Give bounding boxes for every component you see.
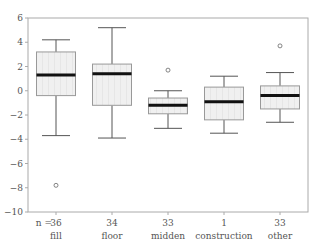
y-tick-label: 6 [17, 13, 23, 23]
y-tick-label: 2 [17, 62, 23, 72]
y-axis: 6420−2−4−6−8−10 [4, 13, 28, 217]
y-tick-label: 4 [17, 37, 23, 47]
n-count-fill: 36 [50, 218, 62, 228]
category-label-midden: midden [151, 231, 185, 241]
box-midden [149, 68, 188, 128]
x-axis-labels: n = 36fill34floor33midden1construction33… [36, 212, 293, 241]
boxes-group [37, 28, 300, 188]
box-floor [93, 28, 132, 138]
outlier-point [166, 68, 170, 72]
iqr-box [93, 64, 132, 105]
n-count-other: 33 [274, 218, 286, 228]
outlier-point [278, 44, 282, 48]
category-label-floor: floor [101, 231, 123, 241]
y-tick-label: 0 [17, 86, 23, 96]
box-other [261, 44, 300, 122]
category-label-fill: fill [50, 231, 62, 241]
outlier-point [54, 183, 58, 187]
iqr-box [205, 87, 244, 120]
n-count-midden: 33 [162, 218, 174, 228]
iqr-box [261, 86, 300, 109]
y-tick-label: −6 [10, 159, 24, 169]
box-fill [37, 40, 76, 188]
category-label-other: other [268, 231, 293, 241]
y-tick-label: −2 [10, 110, 23, 120]
box-plot-chart: 6420−2−4−6−8−10 n = 36fill34floor33midde… [0, 0, 319, 247]
n-count-construction: 1 [221, 218, 227, 228]
n-count-floor: 34 [106, 218, 118, 228]
box-construction [205, 76, 244, 133]
category-label-construction: construction [195, 231, 253, 241]
y-tick-label: −8 [10, 183, 24, 193]
y-tick-label: −4 [10, 134, 24, 144]
y-tick-label: −10 [4, 207, 23, 217]
